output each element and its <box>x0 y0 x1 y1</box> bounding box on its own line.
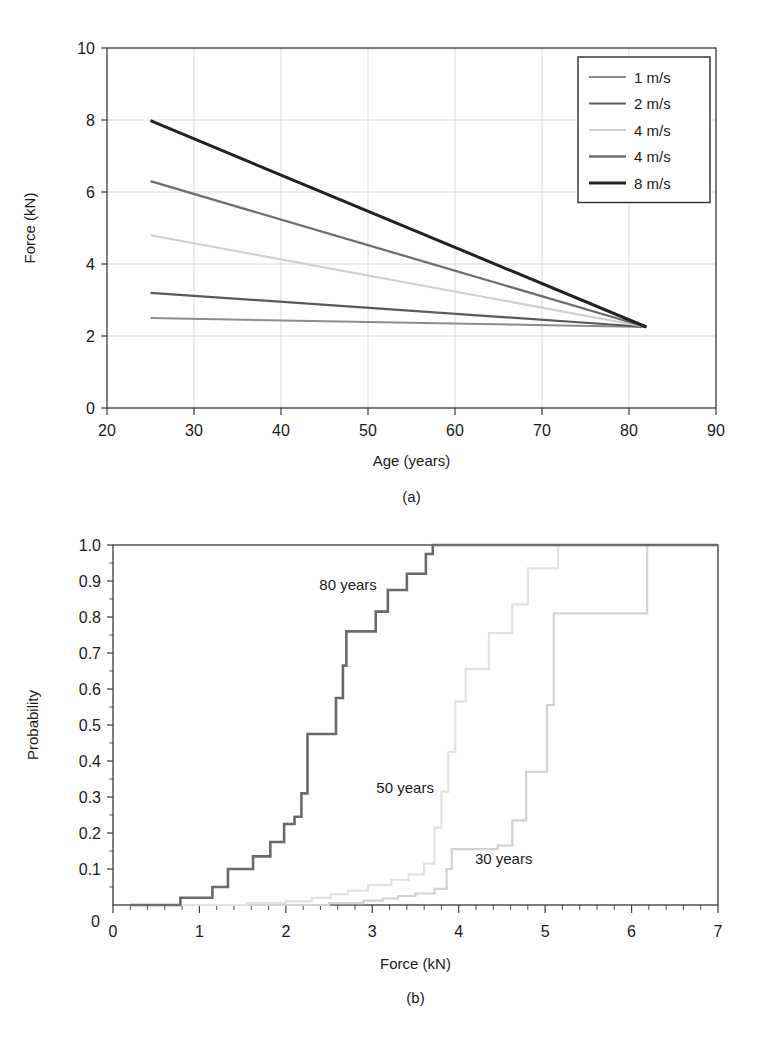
x-tick-label: 80 <box>620 422 638 439</box>
x-axis-label: Age (years) <box>373 452 451 469</box>
data-curves-b <box>130 545 718 905</box>
y-tick-label: 0.9 <box>79 573 101 590</box>
panel-b: 00.10.20.30.40.50.60.70.80.91.0012345678… <box>0 520 766 1045</box>
series-step-1 <box>130 545 718 905</box>
y-tick-label: 0.8 <box>79 609 101 626</box>
legend-label-1: 2 m/s <box>634 95 671 112</box>
panel-b-plot: 00.10.20.30.40.50.60.70.80.91.0012345678… <box>0 520 766 1045</box>
y-tick-label: 8 <box>86 112 95 129</box>
curve-annotations-b: 80 years50 years30 years <box>319 576 532 867</box>
x-tick-label: 30 <box>185 422 203 439</box>
y-tick-label: 0.7 <box>79 645 101 662</box>
x-tick-label: 20 <box>98 422 116 439</box>
y-tick-label: 0 <box>86 400 95 417</box>
panel-caption-b: (b) <box>406 989 424 1006</box>
plot-frame-b <box>113 545 718 905</box>
y-tick-label: 6 <box>86 184 95 201</box>
data-curves-a <box>151 121 647 327</box>
x-tick-label: 40 <box>272 422 290 439</box>
x-tick-label: 6 <box>627 923 636 940</box>
y-tick-label: 0 <box>91 913 100 930</box>
y-tick-label: 2 <box>86 328 95 345</box>
legend-label-4: 8 m/s <box>634 175 671 192</box>
x-tick-label: 70 <box>533 422 551 439</box>
panel-a: 024681020304050607080901 m/s2 m/s4 m/s4 … <box>0 0 766 520</box>
curve-annotation-0: 80 years <box>319 576 377 593</box>
figure-root: 024681020304050607080901 m/s2 m/s4 m/s4 … <box>0 0 766 1045</box>
y-tick-label: 10 <box>77 40 95 57</box>
legend-label-0: 1 m/s <box>634 69 671 86</box>
x-axis-label: Force (kN) <box>380 955 451 972</box>
y-tick-label: 0.1 <box>79 861 101 878</box>
x-tick-label: 50 <box>359 422 377 439</box>
x-tick-label: 1 <box>195 923 204 940</box>
y-tick-label: 0.4 <box>79 753 101 770</box>
plot-border <box>113 545 718 905</box>
series-step-0 <box>130 545 718 905</box>
x-tick-label: 90 <box>707 422 725 439</box>
x-tick-label: 60 <box>446 422 464 439</box>
y-tick-label: 0.5 <box>79 717 101 734</box>
x-tick-label: 3 <box>368 923 377 940</box>
panel-caption-a: (a) <box>402 488 420 505</box>
legend-label-2: 4 m/s <box>634 122 671 139</box>
curve-annotation-2: 30 years <box>475 850 533 867</box>
y-axis-label: Force (kN) <box>21 193 38 264</box>
x-tick-label: 5 <box>541 923 550 940</box>
series-line-4 <box>151 121 647 327</box>
y-tick-label: 4 <box>86 256 95 273</box>
y-tick-label: 0.6 <box>79 681 101 698</box>
y-tick-label: 1.0 <box>79 537 101 554</box>
y-axis-label: Probability <box>24 689 41 760</box>
legend-label-3: 4 m/s <box>634 148 671 165</box>
series-step-2 <box>130 545 718 905</box>
x-tick-label: 4 <box>454 923 463 940</box>
series-line-3 <box>151 181 647 327</box>
y-tick-label: 0.2 <box>79 825 101 842</box>
series-line-2 <box>151 235 647 327</box>
x-tick-label: 2 <box>281 923 290 940</box>
legend-a: 1 m/s2 m/s4 m/s4 m/s8 m/s <box>578 57 710 203</box>
x-tick-label: 7 <box>714 923 723 940</box>
curve-annotation-1: 50 years <box>376 779 434 796</box>
y-tick-label: 0.3 <box>79 789 101 806</box>
x-tick-label: 0 <box>109 923 118 940</box>
panel-a-plot: 024681020304050607080901 m/s2 m/s4 m/s4 … <box>0 0 766 520</box>
